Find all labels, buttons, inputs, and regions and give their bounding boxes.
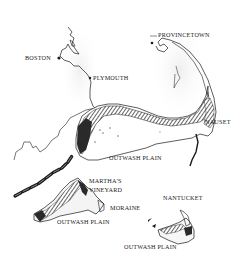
label-outwash-plain-nantucket: OUTWASH PLAIN	[124, 244, 177, 250]
label-provincetown: PROVINCETOWN	[158, 32, 210, 38]
label-marthas: MARTHA'S	[89, 178, 122, 184]
outer-cape	[150, 20, 216, 166]
boston-dot	[57, 56, 60, 59]
label-boston: BOSTON	[25, 55, 51, 61]
label-outwash-plain-cape: OUTWASH PLAIN	[109, 155, 162, 161]
label-nantucket: NANTUCKET	[163, 195, 203, 201]
label-plymouth: PLYMOUTH	[93, 75, 128, 81]
label-nauset: NAUSET	[205, 119, 231, 125]
label-vineyard: VINEYARD	[89, 187, 122, 193]
plymouth-dot	[89, 77, 91, 79]
map-drawing	[0, 0, 247, 261]
nantucket	[148, 210, 194, 244]
mainland-coast	[60, 25, 100, 115]
label-outwash-plain-vineyard: OUTWASH PLAIN	[57, 219, 110, 225]
marthas-vineyard	[34, 178, 104, 222]
label-moraine: MORAINE	[110, 205, 140, 211]
provincetown-dot	[151, 42, 154, 45]
